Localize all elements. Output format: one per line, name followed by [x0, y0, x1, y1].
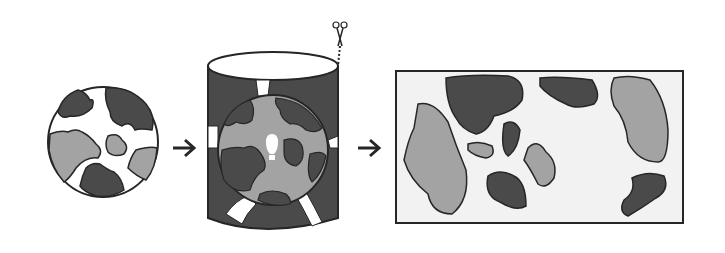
cylinder — [208, 22, 347, 229]
arrow-right-icon — [358, 140, 379, 156]
map-projection-diagram — [0, 0, 725, 253]
cut-line — [338, 46, 340, 66]
arrow-right-icon — [173, 140, 194, 156]
globe — [48, 87, 158, 197]
flat-map — [396, 71, 683, 223]
scissors-icon — [333, 22, 347, 46]
